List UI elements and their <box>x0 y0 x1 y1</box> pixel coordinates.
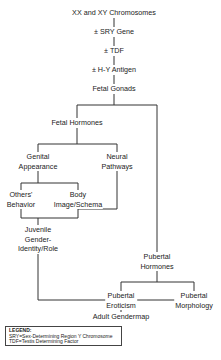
node-pubertal-hormones: PubertalHormones <box>139 252 174 271</box>
node-fetal-hormones: Fetal Hormones <box>50 118 103 128</box>
legend-tdf: TDF=Testis Determining Factor <box>9 338 78 344</box>
node-sry-gene: ± SRY Gene <box>93 27 135 37</box>
node-juvenile-gender-identity: JuvenileGender-Identity/Role <box>17 225 59 254</box>
node-body-image: BodyImage/Schema <box>53 190 103 209</box>
node-neural-pathways: NeuralPathways <box>100 152 133 171</box>
node-tdf: ± TDF <box>103 46 125 56</box>
legend-box: LEGEND: SRY=Sex-Determining Region Y Chr… <box>5 326 122 346</box>
node-fetal-gonads: Fetal Gonads <box>91 84 136 94</box>
node-others-behavior: Others'Behavior <box>6 190 36 209</box>
node-pubertal-eroticism: PubertalEroticism <box>105 291 137 310</box>
node-pubertal-morphology: PubertalMorphology <box>174 291 214 310</box>
node-chromosomes: XX and XY Chromosomes <box>71 8 157 18</box>
node-hy-antigen: ± H-Y Antigen <box>91 65 137 75</box>
node-adult-gendermap: Adult Gendermap <box>92 312 150 322</box>
node-genital-appearance: GenitalAppearance <box>18 152 59 171</box>
